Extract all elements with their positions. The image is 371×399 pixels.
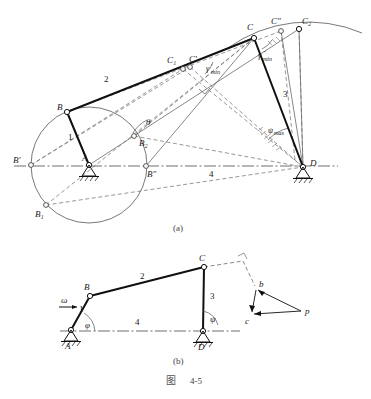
joint-C1	[181, 67, 186, 72]
vector-bc-arrowhead	[249, 305, 255, 312]
label-B: B	[57, 102, 63, 112]
omega-arrow	[59, 305, 77, 309]
svg-text:max: max	[274, 130, 284, 136]
figure-caption: 图 4-5	[166, 375, 202, 386]
label-gamma-min-prime: γ ′ min	[206, 63, 220, 75]
ground-support-A	[79, 162, 99, 181]
label-C2: C₂	[302, 16, 311, 26]
joint-B2	[132, 134, 137, 139]
label-B-doubleprime: B″	[147, 169, 156, 179]
link-2-coupler-b	[90, 267, 204, 296]
joint-C	[251, 35, 256, 40]
label-C1: C₁	[167, 55, 176, 65]
label-vel-b: b	[259, 279, 264, 289]
link-label-3-b: 3	[210, 291, 215, 301]
joint-B-prime	[29, 163, 34, 168]
label-vel-p: p	[304, 306, 310, 316]
link-2-coupler	[67, 38, 254, 112]
diagram-a: A B B′ B″ B₁ B₂ C C₁ C′ C″ C₂ D 1 2 3 4 …	[13, 16, 362, 233]
caption-cn: 图	[166, 375, 176, 386]
diagram-b: b c p A B C D 1 2 3 4 ω φ ψ (b)	[59, 253, 310, 366]
svg-text:γ: γ	[206, 64, 210, 73]
label-C-doubleprime: C″	[271, 16, 281, 26]
label-A: A	[81, 153, 88, 163]
joint-B-doubleprime	[144, 164, 149, 169]
link-label-4-a: 4	[209, 169, 214, 179]
joint-C-b	[201, 264, 206, 269]
link-3-rocker	[254, 38, 303, 167]
link-label-3-a: 3	[283, 89, 288, 99]
joint-B1	[44, 203, 49, 208]
subcaption-a: (a)	[173, 223, 183, 233]
link-3-rocker-b	[203, 267, 204, 331]
label-B-b: B	[84, 282, 90, 292]
angle-arcs-b	[84, 311, 218, 331]
figure-4-5: A B B′ B″ B₁ B₂ C C₁ C′ C″ C₂ D 1 2 3 4 …	[0, 0, 371, 399]
label-C-b: C	[199, 253, 206, 263]
joint-B-b	[87, 293, 92, 298]
label-C-prime: C′	[189, 54, 198, 64]
joint-C-doubleprime	[279, 29, 284, 34]
link-label-2-a: 2	[104, 74, 109, 84]
figure-canvas: A B B′ B″ B₁ B₂ C C₁ C′ C″ C₂ D 1 2 3 4 …	[0, 0, 371, 399]
label-A-b: A	[64, 341, 71, 351]
label-B2: B₂	[139, 138, 148, 148]
right-angle-mark-b	[238, 253, 247, 259]
label-D-b: D	[197, 342, 205, 352]
gamma-min-hatching	[268, 37, 280, 45]
label-gamma-min-doubleprime: γ ″ min	[258, 50, 272, 62]
joint-C2	[296, 26, 301, 31]
label-omega: ω	[61, 295, 67, 305]
label-B-prime: B′	[13, 155, 21, 165]
link-label-4-b: 4	[135, 317, 140, 327]
label-psi-max: ψ max	[268, 126, 284, 136]
label-D: D	[309, 158, 317, 168]
svg-text:min: min	[263, 56, 272, 62]
label-C: C	[247, 22, 254, 32]
construction-lines-solid	[89, 29, 303, 167]
label-psi-b: ψ	[210, 314, 216, 324]
vector-pb-arrowhead	[258, 290, 265, 296]
caption-number: 4-5	[190, 376, 202, 386]
label-B1: B₁	[35, 209, 44, 219]
link-label-2-b: 2	[140, 271, 145, 281]
label-phi: φ	[85, 320, 90, 330]
subcaption-b: (b)	[173, 356, 184, 366]
ground-support-A-b	[61, 327, 81, 346]
link-label-1-a: 1	[68, 132, 73, 142]
joint-B	[64, 109, 69, 114]
construction-dashed-b	[204, 261, 255, 286]
label-theta: θ	[146, 117, 151, 127]
label-vel-c: c	[245, 316, 249, 326]
joint-C-prime	[188, 65, 193, 70]
link-label-1-b: 1	[79, 304, 84, 314]
svg-text:min: min	[211, 69, 220, 75]
